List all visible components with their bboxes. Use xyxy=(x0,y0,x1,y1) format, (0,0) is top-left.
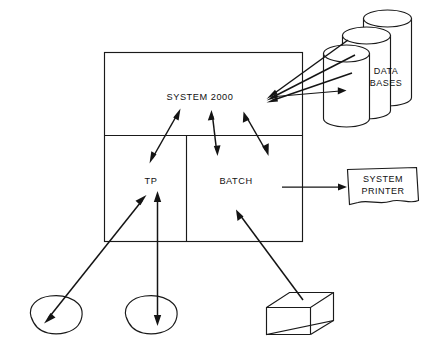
system-printer-label-line1: SYSTEM xyxy=(363,174,403,184)
data-bases-label-line1: DATA xyxy=(374,66,399,76)
system-2000-architecture-diagram: SYSTEM 2000 TP BATCH DATA BASES xyxy=(0,0,433,355)
card-deck-box xyxy=(267,293,334,335)
diagram-canvas: SYSTEM 2000 TP BATCH DATA BASES xyxy=(0,0,433,355)
tp-label: TP xyxy=(145,176,158,186)
system-2000-box xyxy=(105,53,303,242)
batch-label: BATCH xyxy=(219,176,252,186)
system-2000-label: SYSTEM 2000 xyxy=(167,92,234,102)
terminal-left-blob xyxy=(30,296,82,334)
data-bases-label-line2: BASES xyxy=(370,78,403,88)
data-base-cylinder-front xyxy=(324,45,370,127)
terminal-middle-blob xyxy=(125,296,177,334)
system-printer-label-line2: PRINTER xyxy=(361,186,404,196)
terminal-left-to-tp-link xyxy=(44,195,147,324)
